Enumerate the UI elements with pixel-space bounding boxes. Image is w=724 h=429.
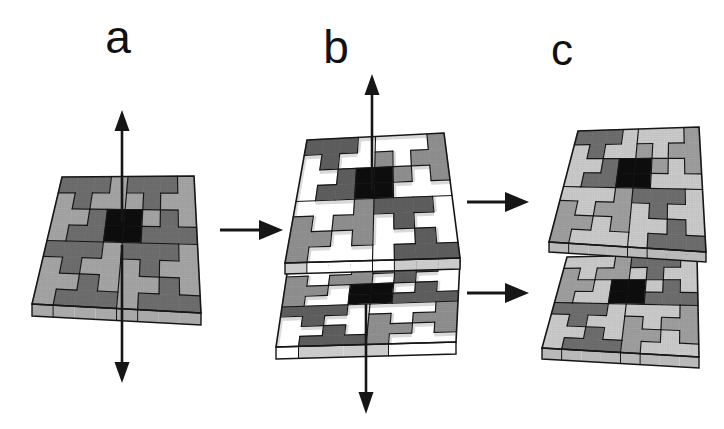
halftone-texture — [413, 196, 434, 212]
slab-side-face — [621, 353, 641, 365]
halftone-texture — [625, 304, 644, 317]
halftone-texture — [593, 202, 613, 217]
halftone-texture — [644, 292, 663, 305]
halftone-texture — [603, 144, 621, 159]
piece-edge — [647, 233, 648, 248]
halftone-texture — [178, 193, 196, 210]
panel-c-label: c — [551, 25, 573, 74]
halftone-texture — [69, 209, 90, 225]
halftone-texture — [282, 296, 305, 307]
halftone-texture — [578, 187, 599, 202]
piece-edge — [318, 185, 337, 186]
halftone-texture — [394, 244, 416, 260]
piece-edge — [661, 330, 680, 331]
piece-edge — [85, 242, 104, 243]
arrow-head — [365, 74, 380, 95]
b-to-c-lower-arrow-icon — [467, 283, 529, 303]
halftone-texture — [637, 129, 654, 144]
halftone-texture — [584, 159, 603, 173]
tile-cell — [412, 181, 432, 197]
halftone-texture — [340, 137, 359, 153]
piece-edge — [414, 212, 434, 213]
piece-edge — [435, 302, 436, 312]
piece-edge — [661, 317, 662, 330]
slab-side-face — [95, 307, 116, 320]
tile-cell — [326, 295, 349, 306]
halftone-texture — [662, 305, 681, 318]
halftone-texture — [684, 143, 701, 159]
halftone-texture — [143, 193, 161, 210]
piece-edge — [59, 273, 79, 274]
halftone-texture — [160, 193, 178, 210]
piece-edge — [160, 260, 179, 261]
halftone-texture — [284, 286, 307, 297]
halftone-texture — [684, 127, 700, 143]
halftone-texture — [375, 151, 393, 167]
slab-side-face — [276, 346, 299, 359]
halftone-texture — [686, 235, 706, 252]
halftone-texture — [621, 340, 642, 353]
tile-a-assembled — [32, 176, 201, 325]
piece-edge — [667, 219, 686, 220]
figure-canvas: a b c — [0, 0, 724, 429]
halftone-texture — [322, 138, 341, 154]
halftone-texture — [567, 314, 588, 326]
halftone-texture — [411, 150, 430, 166]
slab-side-face — [389, 343, 412, 356]
piece-edge — [389, 333, 411, 334]
piece-edge — [437, 281, 438, 291]
halftone-texture — [590, 130, 608, 145]
halftone-texture — [299, 336, 323, 347]
halftone-texture — [178, 210, 197, 227]
tile-cell — [626, 292, 645, 305]
halftone-texture — [648, 218, 667, 234]
halftone-texture — [575, 201, 596, 216]
slab-side-face — [321, 345, 344, 358]
halftone-texture — [436, 291, 459, 302]
halftone-texture — [127, 176, 145, 193]
piece-edge — [416, 281, 438, 282]
halftone-texture — [597, 256, 616, 268]
piece-edge — [335, 199, 355, 200]
halftone-texture — [663, 280, 681, 293]
halftone-texture — [142, 210, 161, 227]
halftone-texture — [161, 176, 178, 193]
tile-cell — [437, 270, 459, 281]
halftone-texture — [646, 267, 664, 280]
tile-cell — [610, 280, 629, 292]
halftone-texture — [588, 230, 610, 246]
halftone-texture — [160, 210, 178, 227]
halftone-texture — [636, 144, 653, 159]
halftone-texture — [309, 231, 332, 247]
piece-edge — [372, 283, 394, 284]
piece-edge — [394, 197, 414, 198]
halftone-texture — [630, 203, 649, 219]
tile-cell — [618, 159, 636, 174]
halftone-texture — [90, 193, 110, 209]
tile-cell — [374, 167, 393, 183]
halftone-texture — [669, 128, 685, 144]
halftone-texture — [110, 177, 129, 194]
piece-edge — [411, 150, 412, 166]
halftone-texture — [640, 341, 660, 355]
piece-edge — [593, 216, 612, 217]
piece-edge — [651, 158, 652, 173]
piece-edge — [141, 243, 160, 244]
halftone-texture — [435, 311, 458, 322]
piece-edge — [338, 168, 356, 169]
piece-edge — [179, 244, 198, 245]
halftone-texture — [99, 258, 120, 275]
tile-cell — [122, 226, 142, 243]
piece-edge — [392, 303, 414, 304]
halftone-texture — [572, 291, 592, 303]
piece-edge — [415, 227, 436, 228]
halftone-texture — [178, 176, 195, 193]
tile-cell — [628, 280, 647, 292]
halftone-texture — [138, 293, 159, 311]
slab-side-face — [117, 309, 138, 322]
halftone-texture — [660, 342, 680, 356]
piece-edge — [551, 314, 569, 315]
piece-edge — [416, 272, 417, 282]
slab-side-face — [434, 342, 457, 355]
halftone-texture — [610, 217, 631, 233]
